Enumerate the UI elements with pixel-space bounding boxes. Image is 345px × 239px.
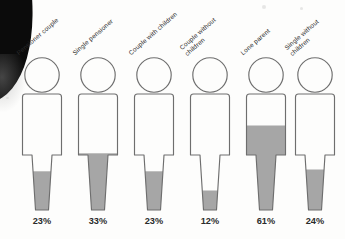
figure-column-couple-without-children: Couple without children 12% — [182, 0, 238, 239]
category-label-line: Lone parent — [239, 27, 271, 56]
category-label-line: Pensioner couple — [15, 17, 60, 57]
category-label: Lone parent — [239, 27, 272, 57]
value-label: 33% — [70, 216, 126, 226]
human-figure-icon — [182, 56, 238, 214]
category-label-line: Couple with children — [127, 11, 178, 57]
human-figure-icon — [238, 56, 294, 214]
figure-column-single-without-children: Single without children 24% — [287, 0, 343, 239]
category-label: Single without children — [283, 17, 325, 57]
value-label: 23% — [126, 216, 182, 226]
human-figure-icon — [287, 56, 343, 214]
human-figure-icon — [14, 56, 70, 214]
figure-column-couple-with-children: Couple with children 23% — [126, 0, 182, 239]
category-label: Couple with children — [127, 11, 179, 57]
value-label: 23% — [14, 216, 70, 226]
value-label: 61% — [238, 216, 294, 226]
category-label: Single pensioner — [71, 18, 115, 57]
figure-columns: Pensioner couple 23% Single pensioner — [0, 0, 345, 239]
category-label: Pensioner couple — [15, 17, 60, 57]
figure-column-single-pensioner: Single pensioner 33% — [70, 0, 126, 239]
pictogram-chart: Pensioner couple 23% Single pensioner — [0, 0, 345, 239]
human-figure-icon — [126, 56, 182, 214]
value-label: 24% — [287, 216, 343, 226]
figure-column-lone-parent: Lone parent 61% — [238, 0, 294, 239]
human-figure-icon — [70, 56, 126, 214]
figure-column-pensioner-couple: Pensioner couple 23% — [14, 0, 70, 239]
category-label-line: Single pensioner — [71, 18, 114, 57]
value-label: 12% — [182, 216, 238, 226]
category-label: Couple without children — [178, 16, 222, 57]
